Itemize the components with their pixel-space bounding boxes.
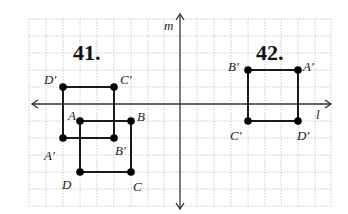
label-41-B: B: [137, 109, 145, 124]
label-41-D-prime: D′: [43, 72, 56, 87]
label-42-D-prime: D′: [296, 128, 309, 143]
axis-label-m: m: [164, 18, 173, 33]
label-41-A: A: [67, 108, 76, 123]
problem-number-41: 41.: [73, 40, 101, 65]
label-42-A-prime: A′: [302, 59, 314, 74]
axis-label-l: l: [316, 107, 320, 122]
label-41-C-prime: C′: [120, 72, 132, 87]
square-42-image: [248, 70, 298, 121]
label-42-B-prime: B′: [228, 59, 239, 74]
label-41-A-prime: A′: [43, 148, 55, 163]
label-41-B-prime: B′: [115, 143, 126, 158]
reflection-diagram: m l 41. 42. D′ C′ A′ B′ A B D C B′ A′ C′…: [0, 0, 348, 214]
label-41-C: C: [133, 179, 142, 194]
problem-number-42: 42.: [256, 40, 284, 65]
label-41-D: D: [61, 177, 72, 192]
label-42-C-prime: C′: [230, 128, 242, 143]
